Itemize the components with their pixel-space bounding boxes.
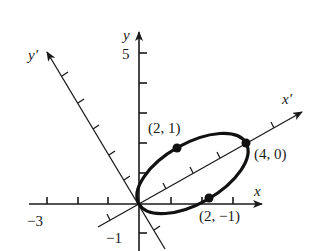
point-label-4-0: (4, 0) (254, 146, 287, 163)
y-tick-label-5: 5 (122, 46, 130, 62)
point-2-1 (173, 144, 182, 153)
y-tick-label-neg1: −1 (106, 230, 122, 246)
point-label-2-1: (2, 1) (148, 120, 181, 137)
x-axis-label: x (253, 183, 261, 199)
x-tick-label-neg3: −3 (27, 213, 43, 229)
point-label-2-neg1: (2, −1) (199, 208, 240, 225)
point-2-neg1 (205, 194, 214, 203)
y-prime-axis-label: y′ (26, 47, 39, 63)
y-prime-axis (47, 52, 165, 249)
diagram: y 5 y′ x′ x −3 −1 (2, 1) (4, 0) (2, −1) (0, 0, 319, 251)
y-axis-label: y (121, 27, 130, 43)
point-4-0 (242, 139, 251, 148)
x-prime-axis-label: x′ (281, 91, 293, 107)
